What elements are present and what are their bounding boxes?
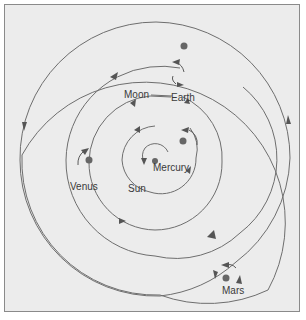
planet-sun-orbit-body bbox=[180, 138, 187, 145]
label-mars: Mars bbox=[222, 286, 244, 296]
arrow-innermost bbox=[141, 158, 147, 165]
planet-mars bbox=[223, 275, 230, 282]
orbit-mars-left bbox=[20, 22, 236, 296]
planet-venus bbox=[86, 157, 93, 164]
epicycle-earth-lower bbox=[172, 76, 176, 84]
orbit-diagram bbox=[0, 0, 306, 320]
epicycle-venus-head bbox=[81, 148, 89, 155]
epicycle-mars-top-head bbox=[221, 262, 229, 268]
label-venus: Venus bbox=[70, 182, 98, 192]
epicycle-mars-left-head bbox=[213, 270, 218, 279]
epicycle-mars-right-head bbox=[236, 275, 242, 284]
arrow-earth-topleft bbox=[110, 72, 118, 80]
epicycle-earth-head bbox=[172, 59, 180, 65]
epicycle-mercury-head bbox=[181, 127, 189, 133]
arrow-earth-bottom bbox=[207, 230, 216, 239]
label-sun: Sun bbox=[128, 184, 146, 194]
label-earth: Earth bbox=[171, 93, 195, 103]
epicycle-mercury bbox=[189, 130, 197, 145]
orbit-mars bbox=[156, 22, 290, 262]
planet-earth bbox=[181, 43, 188, 50]
label-moon: Moon bbox=[124, 90, 149, 100]
arrow-outer-right bbox=[286, 115, 291, 124]
label-mercury: Mercury bbox=[153, 163, 189, 173]
epicycle-venus bbox=[78, 151, 84, 165]
